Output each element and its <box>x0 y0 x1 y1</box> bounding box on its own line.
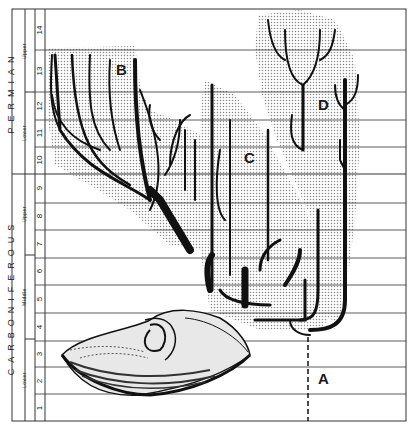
stage-14: 14 <box>35 20 45 40</box>
subperiod-carb-upper: Upper <box>21 194 29 234</box>
stage-12: 12 <box>35 96 45 116</box>
stage-10: 10 <box>35 150 45 170</box>
clade-label-b: B <box>116 61 127 78</box>
clade-envelopes <box>48 10 360 330</box>
clade-label-a: A <box>318 370 329 387</box>
stage-13: 13 <box>35 61 45 81</box>
stage-1: 1 <box>35 398 45 418</box>
subperiod-carb-lower: Lower <box>21 360 29 400</box>
period-label-carboniferous: CARBONIFEROUS <box>6 172 18 422</box>
subperiod-permian-lower: Lower <box>21 113 29 153</box>
stage-9: 9 <box>35 178 45 198</box>
clade-label-d: D <box>318 96 329 113</box>
clade-label-c: C <box>244 149 255 166</box>
stage-3: 3 <box>35 344 45 364</box>
stage-6: 6 <box>35 261 45 281</box>
subperiod-carb-middle: Middle <box>21 277 29 317</box>
subperiod-permian-upper: Upper <box>21 31 29 71</box>
phylogeny-diagram <box>0 0 415 432</box>
stage-4: 4 <box>35 317 45 337</box>
fossil-shell-illustration <box>62 310 250 395</box>
stage-11: 11 <box>35 123 45 143</box>
stage-8: 8 <box>35 206 45 226</box>
stage-5: 5 <box>35 289 45 309</box>
period-label-permian: PERMIAN <box>6 17 18 167</box>
stage-7: 7 <box>35 234 45 254</box>
stage-2: 2 <box>35 371 45 391</box>
